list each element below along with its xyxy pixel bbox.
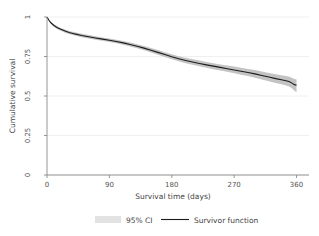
survival-plot-svg: 090180270360 00.250.50.751 Survival time… <box>0 0 319 236</box>
y-tick-label: 0.5 <box>24 90 32 101</box>
x-tick-label: 0 <box>45 181 49 189</box>
y-tick-label: 1 <box>24 15 32 19</box>
y-tick-label: 0.75 <box>24 49 32 65</box>
y-tick-label: 0 <box>24 173 32 177</box>
legend-ci-swatch <box>95 216 121 223</box>
survival-chart-figure: 090180270360 00.250.50.751 Survival time… <box>0 0 319 236</box>
y-tick-label: 0.25 <box>24 128 32 144</box>
legend-ci-label: 95% CI <box>126 216 153 225</box>
legend-line-label: Survivor function <box>194 216 258 225</box>
y-axis-title: Cumulative survival <box>8 59 17 134</box>
x-tick-label: 360 <box>290 181 303 189</box>
x-tick-label: 90 <box>105 181 114 189</box>
x-tick-label: 180 <box>165 181 178 189</box>
x-axis-title: Survival time (days) <box>135 192 211 201</box>
x-tick-label: 270 <box>227 181 240 189</box>
